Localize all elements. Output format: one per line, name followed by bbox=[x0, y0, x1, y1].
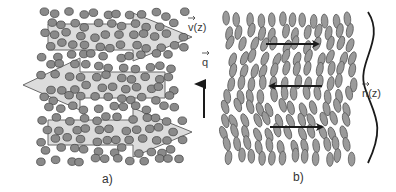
particle bbox=[50, 31, 59, 39]
particle bbox=[95, 126, 104, 134]
molecule bbox=[303, 61, 312, 76]
particle bbox=[82, 60, 91, 68]
particle bbox=[132, 126, 141, 134]
particle bbox=[178, 136, 187, 144]
molecule bbox=[234, 25, 243, 40]
particle bbox=[137, 93, 146, 101]
particle bbox=[105, 125, 114, 133]
molecule bbox=[270, 88, 278, 103]
particle bbox=[130, 31, 139, 39]
particle bbox=[125, 11, 134, 19]
particle bbox=[63, 134, 72, 142]
molecule bbox=[250, 63, 260, 78]
molecule bbox=[229, 123, 240, 138]
particle bbox=[133, 41, 142, 49]
particle bbox=[101, 31, 110, 39]
particle bbox=[170, 103, 179, 111]
molecule bbox=[269, 62, 279, 77]
particle bbox=[143, 114, 152, 122]
particle bbox=[76, 135, 85, 143]
particle bbox=[110, 102, 119, 110]
molecule bbox=[222, 136, 231, 151]
particle bbox=[40, 8, 49, 16]
particle bbox=[52, 114, 61, 122]
particle bbox=[93, 73, 102, 81]
particle bbox=[131, 102, 140, 110]
particle bbox=[69, 41, 78, 49]
molecule bbox=[328, 110, 338, 125]
particle bbox=[91, 34, 100, 42]
particle bbox=[51, 135, 60, 143]
particle bbox=[65, 73, 74, 81]
particle bbox=[51, 156, 60, 164]
particle bbox=[154, 124, 163, 132]
particle bbox=[37, 71, 46, 79]
particle bbox=[108, 20, 117, 28]
particle bbox=[62, 29, 71, 37]
particle bbox=[57, 144, 66, 152]
molecule bbox=[259, 151, 266, 165]
particle bbox=[152, 97, 161, 105]
molecule bbox=[336, 35, 347, 50]
molecule bbox=[233, 12, 240, 26]
particle bbox=[169, 128, 178, 136]
particle bbox=[163, 137, 172, 145]
molecule bbox=[312, 139, 320, 154]
particle bbox=[79, 146, 88, 154]
molecule bbox=[268, 151, 276, 166]
particle bbox=[65, 8, 74, 16]
particle bbox=[55, 127, 64, 135]
particle bbox=[152, 8, 161, 16]
particle bbox=[114, 155, 123, 163]
particle bbox=[126, 157, 135, 165]
particle bbox=[104, 93, 113, 101]
director-label: n(z) bbox=[362, 88, 381, 99]
particle bbox=[100, 155, 109, 163]
particle bbox=[137, 51, 146, 59]
particle bbox=[69, 102, 78, 110]
panel-a-label: a) bbox=[102, 173, 113, 185]
molecule bbox=[259, 75, 266, 89]
molecule bbox=[310, 14, 317, 28]
particle bbox=[73, 126, 82, 134]
molecule bbox=[312, 152, 319, 166]
molecule bbox=[308, 100, 318, 115]
particle bbox=[98, 84, 107, 92]
particle bbox=[127, 76, 136, 84]
particle bbox=[37, 53, 46, 61]
particle bbox=[152, 50, 161, 58]
particle bbox=[77, 32, 86, 40]
particle bbox=[99, 52, 108, 60]
particle bbox=[57, 21, 66, 29]
particle bbox=[51, 70, 60, 78]
particle bbox=[115, 31, 124, 39]
particle bbox=[48, 19, 57, 27]
molecule bbox=[259, 51, 270, 66]
particle bbox=[76, 73, 85, 81]
particle bbox=[65, 91, 74, 99]
flow-arrows-b bbox=[266, 44, 322, 127]
particle bbox=[166, 146, 175, 154]
particle bbox=[162, 30, 171, 38]
molecule bbox=[225, 150, 233, 165]
particle bbox=[87, 50, 96, 58]
particle bbox=[117, 22, 126, 30]
particle bbox=[119, 64, 128, 72]
molecule bbox=[331, 136, 339, 151]
flow-arrow-left-middle bbox=[23, 58, 165, 110]
particle bbox=[160, 102, 169, 110]
particle bbox=[57, 105, 66, 113]
particle bbox=[41, 29, 50, 37]
particle bbox=[170, 19, 179, 27]
particle bbox=[66, 118, 75, 126]
molecule bbox=[303, 25, 312, 40]
particle bbox=[80, 115, 89, 123]
particle bbox=[80, 11, 89, 19]
particle bbox=[93, 117, 102, 125]
particle bbox=[80, 24, 89, 32]
particle bbox=[151, 114, 160, 122]
particle bbox=[155, 23, 164, 31]
molecule bbox=[323, 137, 332, 152]
particle bbox=[81, 125, 90, 133]
particle bbox=[47, 86, 56, 94]
